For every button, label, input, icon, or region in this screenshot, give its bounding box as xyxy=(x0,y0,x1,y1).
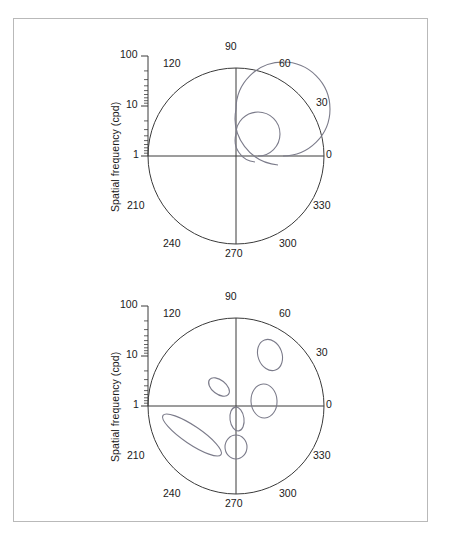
tuning-ellipse-3 xyxy=(250,383,278,418)
polar-plot-top: Spatial frequency (cpd) 100 10 1 90 120 … xyxy=(100,34,350,259)
angular-label-270-top: 270 xyxy=(225,247,243,259)
polar-plot-bottom: Spatial frequency (cpd) 100 10 1 90 120 … xyxy=(100,284,350,509)
angular-label-330-bottom: 330 xyxy=(313,449,331,461)
radial-tick-10-top: 10 xyxy=(126,98,138,110)
angular-label-210-bottom: 210 xyxy=(127,449,145,461)
angular-label-30-top: 30 xyxy=(316,96,328,108)
radial-minor-ticks-bottom xyxy=(144,321,148,403)
angular-label-30-bottom: 30 xyxy=(316,346,328,358)
angular-label-330-top: 330 xyxy=(313,199,331,211)
y-axis-label-top: Spatial frequency (cpd) xyxy=(109,102,121,212)
radial-tick-10-bottom: 10 xyxy=(126,348,138,360)
tuning-ellipse-5 xyxy=(158,408,226,462)
radial-tick-1-bottom: 1 xyxy=(133,398,139,410)
angular-label-60-top: 60 xyxy=(279,57,291,69)
angular-label-0-top: 0 xyxy=(326,148,332,160)
angular-label-270-bottom: 270 xyxy=(225,497,243,509)
angular-label-300-bottom: 300 xyxy=(279,487,297,499)
angular-label-300-top: 300 xyxy=(279,237,297,249)
tuning-ellipse-2 xyxy=(205,374,233,400)
polar-axes-svg-top xyxy=(100,34,350,259)
angular-label-60-bottom: 60 xyxy=(279,307,291,319)
radial-minor-ticks-top xyxy=(144,71,148,153)
angular-label-0-bottom: 0 xyxy=(326,398,332,410)
inner-spiral-top xyxy=(235,112,280,162)
angular-label-90-bottom: 90 xyxy=(225,290,237,302)
radial-tick-100-top: 100 xyxy=(120,48,138,60)
spiral-contours-top xyxy=(235,62,330,165)
figure-canvas: Spatial frequency (cpd) 100 10 1 90 120 … xyxy=(0,0,454,544)
angular-label-210-top: 210 xyxy=(127,199,145,211)
angular-label-90-top: 90 xyxy=(225,40,237,52)
radial-tick-100-bottom: 100 xyxy=(120,298,138,310)
ellipse-contours-bottom xyxy=(158,336,287,462)
polar-axes-svg-bottom xyxy=(100,284,350,509)
radial-tick-1-top: 1 xyxy=(133,148,139,160)
angular-label-120-bottom: 120 xyxy=(163,307,181,319)
angular-label-120-top: 120 xyxy=(163,57,181,69)
tuning-ellipse-4 xyxy=(228,406,245,432)
y-axis-label-bottom: Spatial frequency (cpd) xyxy=(109,352,121,462)
angular-label-240-bottom: 240 xyxy=(163,487,181,499)
angular-label-240-top: 240 xyxy=(163,237,181,249)
tuning-ellipse-1 xyxy=(253,336,286,374)
